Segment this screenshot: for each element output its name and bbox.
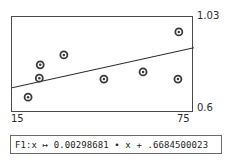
regression-plot-screen: 1.03 0.6 15 75 F1:x ↦ 0.00298681 • x + .… bbox=[0, 0, 232, 163]
y-axis-min-label: 0.6 bbox=[197, 102, 213, 113]
data-point-group bbox=[25, 28, 183, 100]
formula-bar[interactable]: F1:x ↦ 0.00298681 • x + .6684500023 bbox=[10, 135, 222, 154]
data-point-center-dot bbox=[38, 77, 41, 80]
formula-text: F1:x ↦ 0.00298681 • x + .6684500023 bbox=[15, 140, 208, 150]
data-point-center-dot bbox=[39, 64, 42, 67]
data-point-center-dot bbox=[177, 78, 180, 81]
data-point-center-dot bbox=[63, 54, 65, 57]
x-axis-max-label: 75 bbox=[177, 113, 190, 124]
data-point-center-dot bbox=[27, 96, 30, 99]
data-point-center-dot bbox=[178, 31, 181, 34]
scatter-plot-frame[interactable] bbox=[11, 16, 193, 112]
x-axis-min-label: 15 bbox=[11, 113, 24, 124]
plot-canvas[interactable] bbox=[12, 17, 194, 113]
data-point-center-dot bbox=[142, 71, 145, 74]
y-axis-max-label: 1.03 bbox=[197, 10, 219, 21]
data-point-center-dot bbox=[103, 78, 106, 81]
